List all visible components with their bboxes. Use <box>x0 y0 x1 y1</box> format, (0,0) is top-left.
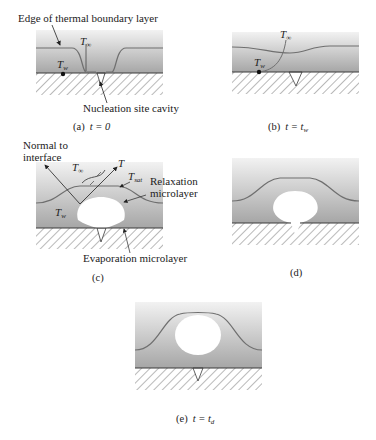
panel-b: T∞ Tw (b)t = tw <box>232 28 359 134</box>
normal-label-2: interface <box>23 151 62 163</box>
t-w-point <box>61 72 65 76</box>
caption-c: (c) <box>92 272 104 284</box>
caption-a: (a)t = 0 <box>73 121 111 133</box>
t-label: T <box>118 157 125 169</box>
cavity-label: Nucleation site cavity <box>83 102 179 114</box>
panel-c: Normal to interface T∞ T Tsat Relaxation… <box>23 139 198 284</box>
t-w-point <box>257 70 261 74</box>
caption-b: (b)t = tw <box>268 121 308 134</box>
relaxation-label-2: microlayer <box>150 187 198 199</box>
relaxation-label-1: Relaxation <box>150 175 198 187</box>
caption-d: (d) <box>290 267 303 279</box>
t-inf-label: T∞ <box>280 28 291 42</box>
liquid-region <box>36 30 163 73</box>
panel-e: (e)t = td <box>135 302 262 426</box>
boiling-diagram: Edge of thermal boundary layer T∞ Tw Nuc… <box>0 0 376 440</box>
panel-a: Edge of thermal boundary layer T∞ Tw Nuc… <box>18 12 179 133</box>
caption-e: (e)t = td <box>176 413 215 426</box>
edge-label: Edge of thermal boundary layer <box>18 12 158 24</box>
detached-bubble <box>175 315 221 355</box>
panel-d: (d) <box>232 158 359 279</box>
normal-label-1: Normal to <box>23 139 68 151</box>
evaporation-label: Evaporation microlayer <box>83 252 187 264</box>
